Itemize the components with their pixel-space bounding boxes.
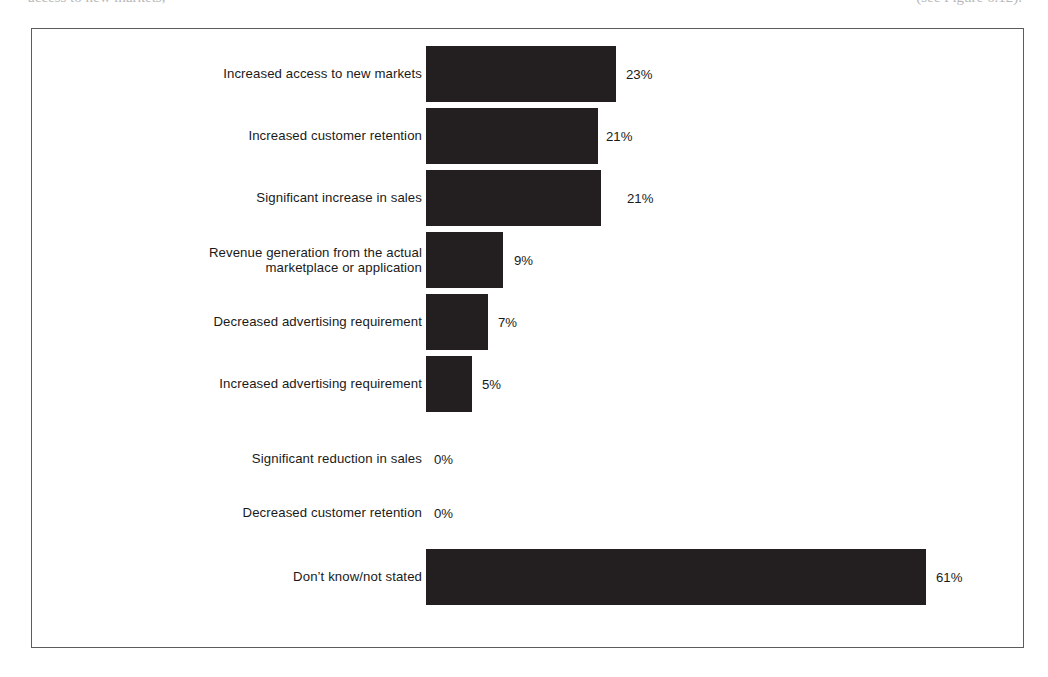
bar-value-label: 0% xyxy=(434,452,453,467)
bar xyxy=(426,170,601,226)
bar-category-label: Decreased customer retention xyxy=(32,505,422,521)
chart-row: Significant increase in sales21% xyxy=(32,170,1023,226)
bar-category-label: Don’t know/not stated xyxy=(32,569,422,585)
bar-track: 7% xyxy=(426,294,517,350)
bar-track: 21% xyxy=(426,170,653,226)
bar-value-label: 21% xyxy=(627,191,653,206)
chart-row: Increased access to new markets23% xyxy=(32,46,1023,102)
bar-category-label: Decreased advertising requirement xyxy=(32,314,422,330)
bar-value-label: 23% xyxy=(626,67,652,82)
bar-value-label: 7% xyxy=(498,315,517,330)
bar-category-label: Significant increase in sales xyxy=(32,190,422,206)
bar-category-label: Increased advertising requirement xyxy=(32,376,422,392)
bar-track: 9% xyxy=(426,232,533,288)
bar-category-label: Increased customer retention xyxy=(32,128,422,144)
bar-value-label: 9% xyxy=(514,253,533,268)
chart-row: Significant reduction in sales0% xyxy=(32,431,1023,487)
bar-track: 23% xyxy=(426,46,652,102)
bar-value-label: 0% xyxy=(434,506,453,521)
bar-track: 0% xyxy=(426,431,453,487)
bar xyxy=(426,294,488,350)
bar-value-label: 61% xyxy=(936,570,962,585)
bar xyxy=(426,108,598,164)
chart-row: Decreased customer retention0% xyxy=(32,485,1023,541)
bar-category-label: Increased access to new markets xyxy=(32,66,422,82)
bar-value-label: 5% xyxy=(482,377,501,392)
bar-value-label: 21% xyxy=(606,129,632,144)
figure-frame: Increased access to new markets23%Increa… xyxy=(31,28,1024,648)
bar-track: 0% xyxy=(426,485,453,541)
bar-category-label: Significant reduction in sales xyxy=(32,451,422,467)
chart-row: Increased advertising requirement5% xyxy=(32,356,1023,412)
bar-category-label: Revenue generation from the actual marke… xyxy=(32,245,422,276)
bar-track: 21% xyxy=(426,108,632,164)
bar-track: 5% xyxy=(426,356,501,412)
bar xyxy=(426,232,503,288)
chart-row: Don’t know/not stated61% xyxy=(32,549,1023,605)
page-bleed-right-fragment: (see Figure 6.12). xyxy=(916,0,1022,6)
bar-track: 61% xyxy=(426,549,962,605)
chart-row: Revenue generation from the actual marke… xyxy=(32,232,1023,288)
bar xyxy=(426,549,926,605)
bar xyxy=(426,356,472,412)
chart-row: Decreased advertising requirement7% xyxy=(32,294,1023,350)
bar xyxy=(426,46,616,102)
page-text-bleed: access to new markets, (see Figure 6.12)… xyxy=(0,0,1048,14)
chart-row: Increased customer retention21% xyxy=(32,108,1023,164)
horizontal-bar-chart: Increased access to new markets23%Increa… xyxy=(32,29,1023,647)
page-bleed-left-fragment: access to new markets, xyxy=(28,0,165,6)
